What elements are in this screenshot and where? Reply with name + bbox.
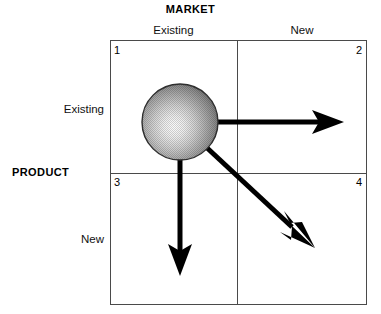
horizontal-divider <box>111 173 366 174</box>
column-header-existing: Existing <box>110 24 237 36</box>
row-header-new: New <box>14 233 104 245</box>
quadrant-number-2: 2 <box>356 45 362 56</box>
quadrant-number-4: 4 <box>356 177 362 188</box>
market-axis-title: MARKET <box>0 3 381 15</box>
ansoff-matrix-diagram: MARKET PRODUCT Existing New Existing New… <box>0 0 381 314</box>
quadrant-number-1: 1 <box>114 45 120 56</box>
product-axis-title: PRODUCT <box>12 166 69 178</box>
row-header-existing: Existing <box>14 103 104 115</box>
column-header-new: New <box>237 24 367 36</box>
quadrant-number-3: 3 <box>114 177 120 188</box>
matrix-frame: 1 2 3 4 <box>110 40 367 305</box>
